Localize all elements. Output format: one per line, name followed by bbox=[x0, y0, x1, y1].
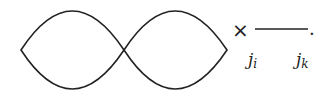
right-lens-loop bbox=[124, 11, 227, 89]
diagram-canvas bbox=[0, 0, 327, 101]
label-j-k: jk bbox=[296, 51, 309, 70]
period: . bbox=[309, 20, 315, 38]
label-j-k-sub: k bbox=[301, 57, 308, 71]
label-j-i-sub: i bbox=[253, 57, 257, 71]
label-j-i: ji bbox=[248, 51, 257, 70]
left-lens-loop bbox=[21, 11, 124, 89]
multiply-sign: × bbox=[232, 20, 249, 40]
